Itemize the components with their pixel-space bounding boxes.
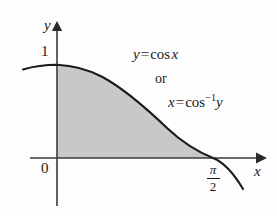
calculus-figure: y x 1 0 π 2 y=cos x or x=cos−1y <box>0 0 277 216</box>
equation-2-superscript: −1 <box>205 92 216 103</box>
x-axis-label: x <box>254 164 261 179</box>
equation-1-argument: x <box>171 46 178 62</box>
plot-canvas <box>0 0 277 216</box>
origin-label-zero: 0 <box>41 161 49 176</box>
equation-y-equals-cos-x: y=cos x <box>133 47 178 62</box>
equation-2-argument: y <box>216 94 223 110</box>
y-axis-label: y <box>44 18 51 33</box>
equation-1-lhs: y <box>133 46 140 62</box>
shaded-region-under-curve <box>57 65 213 158</box>
equation-2-function: cos <box>185 94 205 110</box>
equation-1-function: cos <box>150 46 170 62</box>
equation-2-lhs: x <box>168 94 175 110</box>
equation-1-operator: = <box>141 46 149 62</box>
pi-numerator: π <box>203 163 223 177</box>
equation-x-equals-arccos-y: x=cos−1y <box>168 93 223 110</box>
two-denominator: 2 <box>203 180 223 194</box>
y-tick-label-one: 1 <box>41 44 49 59</box>
equation-connector-or: or <box>155 72 167 86</box>
equation-2-operator: = <box>176 94 184 110</box>
x-tick-label-pi-over-two: π 2 <box>203 163 223 193</box>
